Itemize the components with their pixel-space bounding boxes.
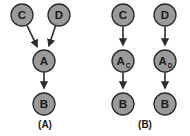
- figure-root: CDABCDACADBB (A)(B): [0, 0, 190, 136]
- node-B-AC: AC: [112, 50, 134, 72]
- node-label-B-B1: B: [119, 98, 127, 110]
- node-A-A: A: [33, 50, 55, 72]
- panel-caption-1: (B): [138, 119, 152, 130]
- node-label-A-C: C: [18, 9, 26, 21]
- panel-caption-0: (A): [38, 119, 52, 130]
- edge-A-C-to-A-A: [27, 25, 37, 47]
- node-B-D: D: [154, 4, 176, 26]
- node-label-A-A: A: [40, 55, 48, 67]
- node-B-B1: B: [112, 93, 134, 115]
- node-B-C: C: [112, 4, 134, 26]
- node-label-B-C: C: [119, 9, 127, 21]
- captions-layer: (A)(B): [38, 119, 152, 130]
- node-label-B-AC: A: [116, 55, 124, 67]
- causal-graph-canvas: CDABCDACADBB (A)(B): [0, 0, 190, 136]
- node-label-B-B2: B: [161, 98, 169, 110]
- node-label-B-AD: A: [158, 55, 166, 67]
- node-A-B: B: [33, 93, 55, 115]
- node-label-A-D: D: [55, 9, 63, 21]
- nodes-layer: CDABCDACADBB: [11, 4, 176, 115]
- node-subscript-B-AC: C: [126, 62, 131, 69]
- node-subscript-B-AD: D: [168, 62, 173, 69]
- edge-A-D-to-A-A: [49, 26, 56, 46]
- node-label-B-D: D: [161, 9, 169, 21]
- node-A-C: C: [11, 4, 33, 26]
- node-B-AD: AD: [154, 50, 176, 72]
- node-A-D: D: [48, 4, 70, 26]
- node-label-A-B: B: [40, 98, 48, 110]
- node-B-B2: B: [154, 93, 176, 115]
